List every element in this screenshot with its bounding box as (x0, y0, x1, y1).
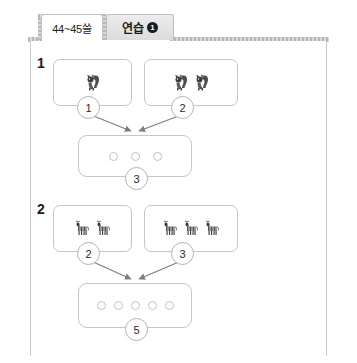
result-dot (109, 152, 118, 161)
result-dot (165, 301, 174, 310)
squirrel-icon (172, 73, 189, 92)
exercise-2-result-bubble[interactable]: 5 (125, 318, 148, 341)
result-dot (114, 301, 123, 310)
zebra-icon (95, 220, 112, 237)
zebra-icon (162, 220, 179, 237)
squirrel-icon (193, 73, 210, 92)
result-dot (131, 301, 140, 310)
result-dot (153, 152, 162, 161)
workbook-page: 44~45쓸 연습 1 1 (0, 0, 357, 363)
zebra-icon (74, 220, 91, 237)
result-dot (97, 301, 106, 310)
arrow-left-to-result (91, 261, 131, 279)
result-dot (131, 152, 140, 161)
tab-practice-label: 연습 (122, 19, 144, 36)
tab-page-range-label: 44~45쓸 (52, 20, 92, 36)
exercise-1-left-bubble[interactable]: 1 (77, 96, 100, 119)
exercise-1-number: 1 (31, 55, 51, 71)
arrow-right-to-result (139, 115, 181, 131)
squirrel-icon (84, 73, 101, 92)
exercise-1-right-bubble[interactable]: 2 (171, 96, 194, 119)
tab-page-range[interactable]: 44~45쓸 (41, 14, 103, 40)
exercise-1-result-bubble[interactable]: 3 (125, 167, 148, 190)
zebra-icon (204, 220, 221, 237)
arrow-left-to-result (91, 115, 131, 131)
exercise-2-right-bubble[interactable]: 3 (171, 242, 194, 265)
arrow-right-to-result (139, 261, 181, 279)
content-frame: 1 (30, 41, 327, 356)
zebra-icon (183, 220, 200, 237)
result-dot (148, 301, 157, 310)
exercise-2-number: 2 (31, 201, 51, 217)
exercise-2: 2 (31, 201, 328, 351)
exercise-2-left-bubble[interactable]: 2 (77, 242, 100, 265)
tab-practice-label-group: 연습 1 (122, 19, 158, 36)
exercise-1: 1 (31, 55, 328, 200)
tab-practice-badge: 1 (147, 22, 158, 33)
tab-practice[interactable]: 연습 1 (106, 14, 174, 40)
